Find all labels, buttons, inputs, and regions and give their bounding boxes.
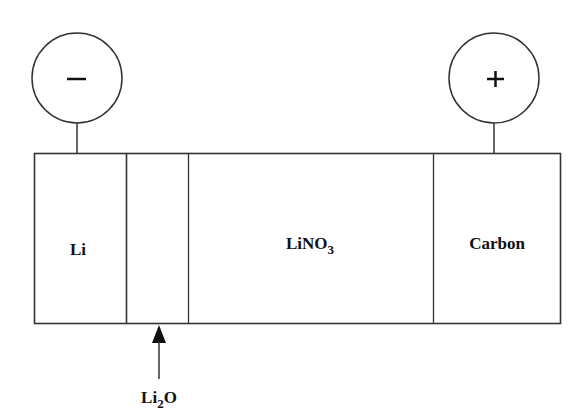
layer-lino3-label: LiNO3 xyxy=(286,234,335,257)
cell-diagram: Li LiNO3 Carbon Li2O xyxy=(0,0,583,420)
layer-carbon-label: Carbon xyxy=(469,234,525,253)
layer-li-label: Li xyxy=(70,240,86,259)
positive-terminal xyxy=(449,33,539,153)
arrow-up-icon xyxy=(152,325,166,343)
li2o-label: Li2O xyxy=(141,388,177,411)
negative-terminal xyxy=(32,33,122,153)
li2o-callout: Li2O xyxy=(141,325,177,411)
